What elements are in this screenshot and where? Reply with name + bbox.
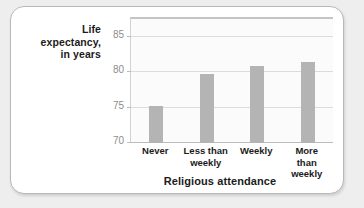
x-axis-title: Religious attendance (107, 175, 333, 187)
y-axis-tick-labels: 70758085 (107, 17, 127, 143)
bars-layer (131, 19, 333, 143)
y-axis-title-line-3: in years (19, 48, 101, 61)
x-axis-category-labels: NeverLess than weeklyWeeklyMore than wee… (130, 145, 333, 173)
x-category-label: Weekly (240, 145, 273, 157)
figure-card: Life expectancy, in years 70758085 Never… (10, 6, 344, 194)
bar (149, 106, 163, 143)
plot-wrapper: 70758085 (107, 17, 333, 143)
bar (200, 74, 214, 143)
y-tick-label-80: 80 (113, 65, 124, 75)
bar (301, 62, 315, 143)
y-tick-label-75: 75 (113, 101, 124, 111)
plot-area (130, 17, 333, 143)
y-tick-label-85: 85 (113, 30, 124, 40)
bar (250, 66, 264, 143)
y-axis-title: Life expectancy, in years (19, 23, 101, 61)
y-tick-label-70: 70 (113, 136, 124, 146)
x-category-label: Never (142, 145, 168, 157)
y-axis-title-line-2: expectancy, (19, 36, 101, 49)
y-axis-title-line-1: Life (19, 23, 101, 36)
x-category-label: Less than weekly (184, 145, 228, 168)
